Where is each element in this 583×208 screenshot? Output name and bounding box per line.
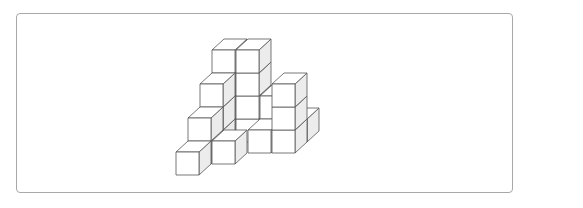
cube: [176, 141, 211, 175]
isometric-cubes-diagram: [0, 0, 583, 208]
